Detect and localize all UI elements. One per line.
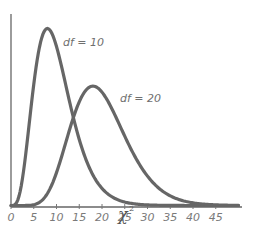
curve-df-10: [11, 29, 239, 206]
x-tick-label: 45: [209, 211, 223, 224]
x-tick-label: 5: [30, 211, 37, 224]
x-axis-label: χ: [117, 205, 129, 224]
chi-square-chart: 051015202530354045 df = 10 df = 20 χ 2: [0, 0, 254, 225]
x-tick-label: 0: [8, 211, 15, 224]
x-tick-label: 15: [72, 211, 86, 224]
x-tick-label: 10: [50, 211, 64, 224]
x-tick-label: 35: [163, 211, 177, 224]
series-label-df-10: df = 10: [63, 36, 104, 49]
series-label-df-20: df = 20: [120, 92, 161, 105]
x-tick-labels: 051015202530354045: [8, 211, 223, 224]
x-tick-label: 40: [186, 211, 200, 224]
x-axis-label-superscript: 2: [129, 204, 134, 213]
x-tick-label: 20: [95, 211, 109, 224]
x-tick-label: 30: [141, 211, 155, 224]
